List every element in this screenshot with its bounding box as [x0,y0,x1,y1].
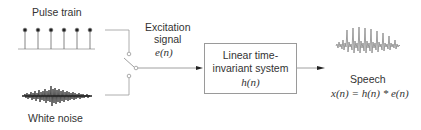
speech-label: Speech [350,73,386,85]
system-label-line1: Linear time- [205,49,296,62]
pulse-train-wire [105,30,129,52]
speech-equation: x(n) = h(n) * e(n) [331,87,409,99]
switch-blade [124,58,134,67]
excitation-symbol: e(n) [155,46,173,58]
pulse-train-icon [23,28,92,49]
switch-pivot [134,66,138,70]
lti-system-block: Linear time- invariant system h(n) [204,43,297,94]
switch-contact-top [127,52,131,56]
system-symbol: h(n) [205,76,296,89]
white-noise-icon [22,86,92,106]
arrow-to-speech-icon [317,66,325,70]
system-label-line2: invariant system [205,62,296,75]
switch-contact-bottom [127,74,131,78]
pulse-train-label: Pulse train [32,6,82,18]
arrow-to-system-icon [196,66,203,70]
excitation-label-line2: signal [154,33,181,45]
white-noise-wire [105,78,129,95]
speech-waveform-icon [336,27,400,53]
excitation-label-line1: Excitation [145,21,191,33]
white-noise-label: White noise [28,112,83,124]
